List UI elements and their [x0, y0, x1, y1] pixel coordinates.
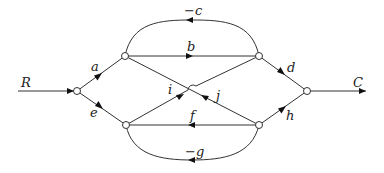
node-6 — [304, 88, 311, 95]
arrow-icon — [278, 106, 286, 114]
edge-d — [259, 56, 307, 91]
label-j: j — [213, 88, 220, 103]
label-e: e — [90, 105, 98, 120]
edge-a — [77, 56, 125, 91]
label-r: R — [20, 75, 31, 90]
label-i: i — [168, 82, 172, 97]
edge-h — [259, 91, 307, 125]
arrow-icon — [176, 94, 184, 100]
node-2 — [122, 53, 129, 60]
label-c: −c — [184, 3, 203, 18]
node-5 — [256, 122, 263, 129]
label-output: C — [353, 75, 363, 90]
arrow-icon — [277, 67, 285, 75]
edge-e — [77, 91, 126, 125]
label-a: a — [91, 59, 99, 74]
arrow-icon — [94, 73, 102, 81]
label-f: f — [189, 108, 197, 123]
label-h: h — [286, 108, 294, 123]
label-d: d — [287, 60, 295, 75]
node-3 — [256, 53, 263, 60]
arrow-icon — [201, 95, 209, 101]
arrow-icon — [67, 88, 74, 94]
label-g: −g — [185, 144, 204, 159]
label-b: b — [187, 39, 195, 54]
node-4 — [123, 122, 130, 129]
signal-flow-graph: R a e b −c f −g i j — [0, 0, 384, 173]
node-1 — [74, 88, 81, 95]
